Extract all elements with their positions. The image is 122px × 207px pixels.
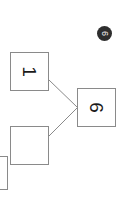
diagram-node-six[interactable]: 6 bbox=[77, 88, 116, 127]
circle-badge[interactable]: 6 bbox=[97, 26, 112, 41]
diagram-canvas: 1 6 6 bbox=[0, 0, 122, 207]
badge-label: 6 bbox=[100, 31, 109, 36]
diagram-node-one[interactable]: 1 bbox=[10, 52, 49, 91]
edge-one-to-six bbox=[49, 80, 77, 107]
node-one-label: 1 bbox=[20, 66, 39, 77]
diagram-node-clipped[interactable] bbox=[0, 156, 8, 190]
diagram-node-empty[interactable] bbox=[10, 126, 49, 165]
edge-empty-to-six bbox=[49, 108, 77, 136]
node-six-label: 6 bbox=[87, 102, 106, 113]
